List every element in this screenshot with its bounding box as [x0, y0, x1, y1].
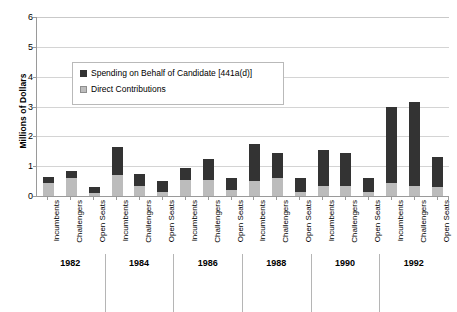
group-labels: 198219841986198819901992	[36, 258, 448, 272]
bar-segment-spending	[112, 147, 123, 175]
category-label: Incumbents	[189, 200, 201, 254]
group-separator	[242, 254, 243, 312]
bar-segment-spending	[295, 178, 306, 191]
bar-segment-direct	[432, 187, 443, 196]
bar-segment-spending	[340, 153, 351, 186]
category-label: Challengers	[212, 200, 224, 254]
bar-segment-spending	[226, 178, 237, 190]
group-separator	[173, 254, 174, 312]
bar-segment-direct	[180, 180, 191, 196]
stacked-bar	[295, 178, 306, 196]
stacked-bar	[134, 174, 145, 196]
category-label: Open Seats	[441, 200, 453, 254]
stacked-bar	[226, 178, 237, 196]
bar-group	[243, 17, 312, 196]
bar-segment-spending	[180, 168, 191, 180]
legend-label-direct: Direct Contributions	[91, 84, 166, 94]
category-label: Open Seats	[166, 200, 178, 254]
bar-segment-spending	[66, 171, 77, 178]
category-label: Challengers	[418, 200, 430, 254]
legend-label-spending: Spending on Behalf of Candidate [441a(d)…	[91, 68, 252, 78]
stacked-bar	[363, 178, 374, 196]
bar-group	[174, 17, 243, 196]
stacked-bar	[66, 171, 77, 196]
stacked-bar	[249, 144, 260, 196]
dark-swatch-icon	[80, 70, 87, 77]
bar-segment-spending	[157, 181, 168, 191]
stacked-bar	[272, 153, 283, 196]
stacked-bar	[89, 187, 100, 196]
bar-segment-direct	[43, 183, 54, 196]
bar-segment-direct	[249, 181, 260, 196]
bar-group	[106, 17, 175, 196]
bar-group	[380, 17, 449, 196]
category-label: Incumbents	[51, 200, 63, 254]
light-swatch-icon	[80, 86, 87, 93]
legend-item-spending: Spending on Behalf of Candidate [441a(d)…	[80, 68, 276, 78]
bar-segment-direct	[409, 186, 420, 196]
bar-segment-direct	[66, 178, 77, 196]
chart-legend: Spending on Behalf of Candidate [441a(d)…	[72, 62, 284, 105]
stacked-bar	[112, 147, 123, 196]
category-label: Incumbents	[326, 200, 338, 254]
category-label: Open Seats	[303, 200, 315, 254]
bar-segment-spending	[363, 178, 374, 191]
category-label: Challengers	[143, 200, 155, 254]
stacked-bar	[409, 102, 420, 196]
bar-segment-spending	[318, 150, 329, 186]
bar-segment-direct	[272, 178, 283, 196]
stacked-bar	[203, 159, 214, 196]
category-label: Incumbents	[257, 200, 269, 254]
bars-layer	[37, 17, 449, 196]
category-label: Incumbents	[120, 200, 132, 254]
stacked-bar	[386, 107, 397, 196]
bar-segment-spending	[249, 144, 260, 181]
stacked-bar	[340, 153, 351, 196]
bar-segment-direct	[386, 183, 397, 196]
stacked-bar	[43, 177, 54, 196]
bar-segment-spending	[134, 174, 145, 186]
year-label: 1986	[173, 258, 242, 268]
year-label: 1982	[36, 258, 105, 268]
year-label: 1992	[379, 258, 448, 268]
legend-item-direct: Direct Contributions	[80, 84, 276, 94]
bar-segment-spending	[409, 102, 420, 186]
bar-segment-spending	[272, 153, 283, 178]
y-axis-title: Millions of Dollars	[18, 36, 28, 186]
stacked-bar	[318, 150, 329, 196]
year-label: 1990	[311, 258, 380, 268]
group-separator	[311, 254, 312, 312]
group-separator	[105, 254, 106, 312]
bar-segment-direct	[112, 175, 123, 196]
category-label: Incumbents	[395, 200, 407, 254]
category-label: Open Seats	[97, 200, 109, 254]
bar-segment-spending	[386, 107, 397, 183]
plot-area: 0123456	[36, 17, 449, 197]
bar-segment-direct	[134, 186, 145, 196]
bar-segment-spending	[432, 157, 443, 187]
category-label: Challengers	[280, 200, 292, 254]
category-label: Open Seats	[372, 200, 384, 254]
bar-segment-spending	[203, 159, 214, 180]
stacked-bar	[432, 157, 443, 196]
category-label: Open Seats	[235, 200, 247, 254]
category-label: Challengers	[349, 200, 361, 254]
stacked-bar	[157, 181, 168, 196]
stacked-bar	[180, 168, 191, 196]
bar-segment-direct	[203, 180, 214, 196]
year-label: 1988	[242, 258, 311, 268]
bar-segment-direct	[318, 186, 329, 196]
category-label: Challengers	[74, 200, 86, 254]
year-label: 1984	[105, 258, 174, 268]
bar-segment-direct	[340, 186, 351, 196]
group-separator	[379, 254, 380, 312]
category-labels: IncumbentsChallengersOpen SeatsIncumbent…	[36, 200, 448, 254]
bar-group	[37, 17, 106, 196]
bar-group	[312, 17, 381, 196]
